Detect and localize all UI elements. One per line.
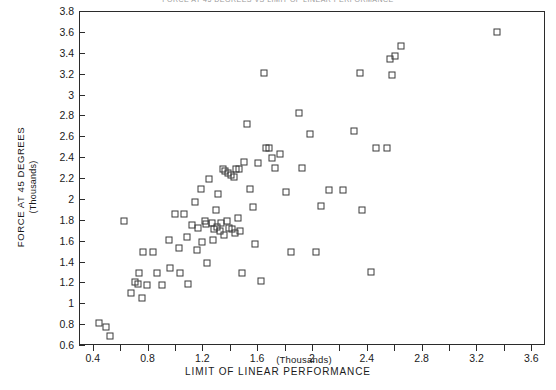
data-point <box>120 217 127 224</box>
data-point <box>197 186 204 193</box>
y-tick-label: 2 <box>44 193 74 205</box>
data-point <box>194 225 201 232</box>
y-tick-label: 1.8 <box>44 214 74 226</box>
data-point <box>326 187 333 194</box>
chart-title: FORCE AT 45 DEGREES VS LIMIT OF LINEAR P… <box>0 0 556 2</box>
data-point <box>340 187 347 194</box>
y-tick <box>79 11 85 12</box>
data-point <box>175 244 182 251</box>
y-axis-label-text: FORCE AT 45 DEGREES <box>15 112 27 262</box>
data-point <box>235 165 242 172</box>
data-point <box>223 217 230 224</box>
data-point <box>159 282 166 289</box>
data-point <box>193 246 200 253</box>
data-point <box>134 281 141 288</box>
x-tick <box>93 345 94 351</box>
data-point <box>127 289 134 296</box>
y-tick <box>79 32 85 33</box>
data-point <box>220 232 227 239</box>
data-point <box>238 269 245 276</box>
data-point <box>268 155 275 162</box>
y-tick-label: 3 <box>44 89 74 101</box>
x-tick <box>312 345 313 351</box>
y-tick-label-wrap: 2.4 <box>44 157 74 169</box>
scatter-series <box>80 12 544 344</box>
y-tick <box>79 74 85 75</box>
data-point <box>244 120 251 127</box>
data-point <box>288 249 295 256</box>
y-tick-label-wrap: 2 <box>44 199 74 211</box>
data-point <box>312 249 319 256</box>
plot-area <box>79 11 545 345</box>
y-tick-label-wrap: 1.8 <box>44 220 74 232</box>
y-tick-label: 2.6 <box>44 130 74 142</box>
x-tick <box>504 345 505 351</box>
data-point <box>373 144 380 151</box>
y-tick-label-wrap: 2.6 <box>44 136 74 148</box>
x-tick <box>449 345 450 351</box>
y-tick <box>79 241 85 242</box>
y-axis-label: FORCE AT 45 DEGREES (Thousands) <box>15 112 39 262</box>
data-point <box>205 176 212 183</box>
x-tick <box>422 345 423 351</box>
data-point <box>307 131 314 138</box>
y-tick-label: 1.2 <box>44 276 74 288</box>
data-point <box>255 160 262 167</box>
data-point <box>185 281 192 288</box>
data-point <box>192 198 199 205</box>
y-tick-label-wrap: 3 <box>44 95 74 107</box>
y-tick-label: 2.2 <box>44 172 74 184</box>
x-tick <box>339 345 340 351</box>
data-point <box>103 324 110 331</box>
y-tick-label-wrap: 2.8 <box>44 115 74 127</box>
data-point <box>177 269 184 276</box>
data-point <box>204 259 211 266</box>
x-tick <box>476 345 477 351</box>
y-tick-label-wrap: 3.6 <box>44 32 74 44</box>
y-tick-label: 0.6 <box>44 339 74 351</box>
y-tick-label: 3.4 <box>44 47 74 59</box>
x-tick <box>175 345 176 351</box>
y-tick-label-wrap: 3.2 <box>44 74 74 86</box>
x-tick <box>367 345 368 351</box>
y-tick <box>79 303 85 304</box>
data-point <box>237 228 244 235</box>
y-tick <box>79 220 85 221</box>
data-point <box>138 294 145 301</box>
data-point <box>167 264 174 271</box>
x-axis-units-wrap: (Thousands) <box>0 354 556 365</box>
data-point <box>260 69 267 76</box>
data-point <box>215 190 222 197</box>
y-tick <box>79 157 85 158</box>
y-tick-label-wrap: 2.2 <box>44 178 74 190</box>
chart-canvas: FORCE AT 45 DEGREES VS LIMIT OF LINEAR P… <box>0 0 556 390</box>
y-tick <box>79 199 85 200</box>
y-tick-label: 3.2 <box>44 68 74 80</box>
data-point <box>356 69 363 76</box>
y-tick <box>79 136 85 137</box>
data-point <box>277 150 284 157</box>
x-tick <box>202 345 203 351</box>
data-point <box>149 249 156 256</box>
data-point <box>389 71 396 78</box>
data-point <box>299 164 306 171</box>
data-point <box>135 269 142 276</box>
y-tick-label-wrap: 1.2 <box>44 282 74 294</box>
y-tick <box>79 262 85 263</box>
data-point <box>367 268 374 275</box>
data-point <box>144 282 151 289</box>
data-point <box>397 43 404 50</box>
x-axis-label: LIMIT OF LINEAR PERFORMANCE <box>0 366 556 377</box>
data-point <box>181 211 188 218</box>
y-tick <box>79 324 85 325</box>
x-tick <box>120 345 121 351</box>
x-tick <box>230 345 231 351</box>
y-tick <box>79 178 85 179</box>
y-tick-label-wrap: 0.8 <box>44 324 74 336</box>
data-point <box>282 188 289 195</box>
data-point <box>198 238 205 245</box>
data-point <box>140 249 147 256</box>
data-point <box>257 278 264 285</box>
y-tick-label: 0.8 <box>44 318 74 330</box>
y-tick <box>79 95 85 96</box>
